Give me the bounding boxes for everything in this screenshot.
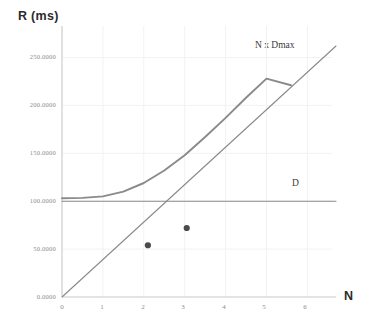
series-line-r <box>62 79 291 199</box>
scatter-points <box>145 225 190 248</box>
plot-area <box>0 0 373 323</box>
data-point <box>184 225 190 231</box>
data-point <box>145 242 151 248</box>
chart-container: R (ms) N 250.0000 200.0000 150.0000 100.… <box>0 0 373 323</box>
gridlines <box>62 26 332 297</box>
